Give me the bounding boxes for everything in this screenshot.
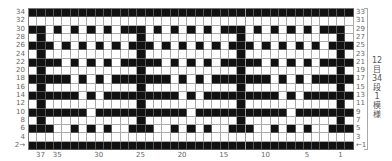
chart-cell: [137, 26, 145, 34]
row-label: 5: [356, 124, 360, 132]
chart-cell: [229, 100, 237, 108]
chart-cell: [279, 109, 287, 117]
chart-cell: [312, 109, 320, 117]
chart-cell: [320, 59, 328, 67]
chart-cell: [137, 67, 145, 75]
chart-cell: [121, 117, 129, 125]
chart-cell: [320, 133, 328, 141]
chart-cell: [196, 125, 204, 133]
chart-grid: [28, 8, 354, 150]
chart-cell: [121, 75, 129, 83]
chart-cell: [112, 100, 120, 108]
chart-cell: [329, 75, 337, 83]
chart-cell: [104, 100, 112, 108]
chart-cell: [320, 67, 328, 75]
chart-cell: [196, 42, 204, 50]
chart-cell: [162, 17, 170, 25]
chart-cell: [254, 9, 262, 17]
chart-cell: [279, 142, 287, 150]
repeat-label-char: 1: [370, 92, 384, 101]
chart-cell: [37, 84, 45, 92]
chart-cell: [296, 59, 304, 67]
chart-cell: [287, 117, 295, 125]
chart-cell: [304, 67, 312, 75]
chart-cell: [329, 125, 337, 133]
chart-cell: [96, 9, 104, 17]
chart-cell: [62, 34, 70, 42]
chart-cell: [46, 92, 54, 100]
chart-cell: [96, 75, 104, 83]
chart-cell: [137, 109, 145, 117]
chart-cell: [187, 50, 195, 58]
chart-cell: [296, 92, 304, 100]
chart-cell: [287, 42, 295, 50]
chart-cell: [221, 133, 229, 141]
chart-cell: [112, 75, 120, 83]
chart-cell: [71, 125, 79, 133]
chart-cell: [246, 133, 254, 141]
chart-cell: [121, 34, 129, 42]
chart-cell: [54, 9, 62, 17]
chart-cell: [46, 75, 54, 83]
chart-cell: [54, 92, 62, 100]
chart-cell: [345, 67, 353, 75]
chart-cell: [129, 75, 137, 83]
chart-cell: [112, 17, 120, 25]
chart-cell: [196, 50, 204, 58]
chart-cell: [179, 34, 187, 42]
chart-cell: [196, 59, 204, 67]
chart-cell: [187, 125, 195, 133]
chart-cell: [146, 42, 154, 50]
chart-cell: [254, 100, 262, 108]
chart-cell: [304, 92, 312, 100]
chart-cell: [87, 125, 95, 133]
row-label: 3: [356, 133, 360, 141]
chart-cell: [112, 34, 120, 42]
chart-cell: [204, 9, 212, 17]
chart-cell: [96, 17, 104, 25]
chart-cell: [137, 9, 145, 17]
chart-cell: [37, 133, 45, 141]
chart-cell: [71, 142, 79, 150]
chart-cell: [212, 100, 220, 108]
chart-cell: [345, 9, 353, 17]
chart-cell: [162, 117, 170, 125]
chart-cell: [304, 17, 312, 25]
chart-cell: [79, 67, 87, 75]
chart-cell: [62, 125, 70, 133]
chart-cell: [320, 100, 328, 108]
chart-cell: [46, 59, 54, 67]
chart-cell: [112, 133, 120, 141]
chart-cell: [62, 67, 70, 75]
chart-cell: [221, 26, 229, 34]
chart-cell: [262, 142, 270, 150]
chart-cell: [246, 34, 254, 42]
chart-cell: [312, 67, 320, 75]
chart-cell: [296, 42, 304, 50]
chart-cell: [96, 117, 104, 125]
chart-cell: [46, 42, 54, 50]
chart-cell: [179, 26, 187, 34]
chart-cell: [187, 42, 195, 50]
chart-cell: [312, 92, 320, 100]
chart-cell: [246, 109, 254, 117]
chart-cell: [179, 109, 187, 117]
chart-cell: [204, 142, 212, 150]
chart-cell: [71, 92, 79, 100]
repeat-bracket: [364, 8, 368, 150]
chart-cell: [304, 125, 312, 133]
chart-cell: [54, 133, 62, 141]
chart-cell: [229, 125, 237, 133]
chart-cell: [162, 9, 170, 17]
chart-cell: [262, 59, 270, 67]
chart-cell: [262, 26, 270, 34]
chart-cell: [271, 75, 279, 83]
chart-cell: [329, 100, 337, 108]
chart-cell: [71, 9, 79, 17]
chart-cell: [329, 42, 337, 50]
chart-cell: [320, 84, 328, 92]
chart-cell: [337, 59, 345, 67]
chart-cell: [337, 17, 345, 25]
chart-cell: [154, 42, 162, 50]
chart-cell: [287, 100, 295, 108]
